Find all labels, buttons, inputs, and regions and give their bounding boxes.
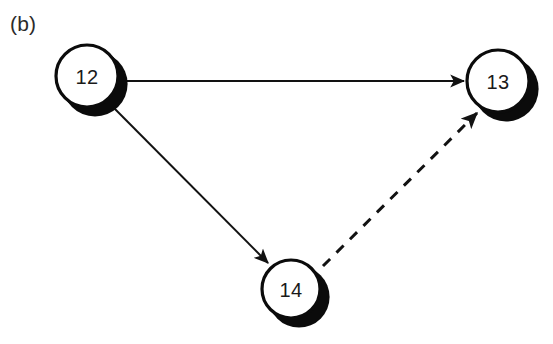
node-12-label: 12: [76, 66, 99, 88]
node-14[interactable]: 14: [262, 260, 330, 328]
node-14-label: 14: [280, 279, 303, 301]
node-13[interactable]: 13: [467, 50, 539, 122]
graph-canvas: (b) 12 13 14: [0, 0, 553, 344]
node-12[interactable]: 12: [56, 45, 128, 117]
edge-12-to-14: [110, 104, 268, 263]
node-group: 12 13 14: [56, 45, 539, 328]
node-13-label: 13: [487, 71, 510, 93]
edge-14-to-13: [323, 113, 477, 266]
edge-group: [110, 81, 477, 266]
panel-label: (b): [10, 12, 36, 35]
figure-panel-b: (b) 12 13 14: [0, 0, 553, 344]
